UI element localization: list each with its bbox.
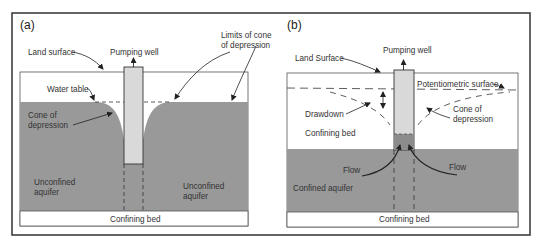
flow-label-left: Flow xyxy=(343,166,360,175)
pumping-well-label-b: Pumping well xyxy=(383,46,432,55)
flow-label-right: Flow xyxy=(449,163,466,172)
aquifer-diagram: (a) Pumping well Land surface Limits of … xyxy=(0,0,543,248)
potentiometric-label: Potentiometric surface xyxy=(417,80,499,89)
cone-label-2: depression xyxy=(28,121,69,130)
pumping-well-label: Pumping well xyxy=(110,48,159,57)
limits-label-1: Limits of cone xyxy=(221,31,272,40)
confining-bed-top-label: Confining bed xyxy=(305,129,356,138)
land-surface-label-b: Land Surface xyxy=(295,54,344,63)
cone-label-b-1: Cone of xyxy=(453,105,482,114)
unconfined-right-1: Unconfined xyxy=(183,182,225,191)
drawdown-label: Drawdown xyxy=(305,110,344,119)
confining-bed-label: Confining bed xyxy=(110,215,161,224)
confined-aquifer-label: Confined aquifer xyxy=(293,184,353,193)
water-table-label: Water table xyxy=(47,85,89,94)
unconfined-left-2: aquifer xyxy=(34,188,59,197)
limits-label-2: of depression xyxy=(221,41,271,50)
cone-label-1: Cone of xyxy=(28,111,57,120)
confined-aquifer-region xyxy=(287,149,518,212)
unconfined-right-2: aquifer xyxy=(183,192,208,201)
unconfined-left-1: Unconfined xyxy=(34,178,76,187)
panel-b-label: (b) xyxy=(287,18,302,32)
panel-a-label: (a) xyxy=(20,18,35,32)
cone-label-b-2: depression xyxy=(453,115,494,124)
confining-bed-bottom-label: Confining bed xyxy=(379,215,430,224)
pumping-well xyxy=(124,67,143,164)
panel-a: (a) Pumping well Land surface Limits of … xyxy=(20,18,272,226)
land-surface-label: Land surface xyxy=(28,48,76,57)
